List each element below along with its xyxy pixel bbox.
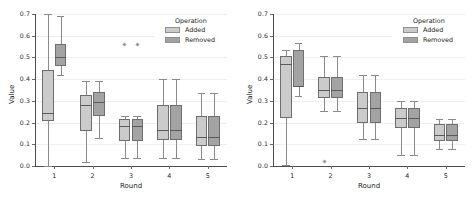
whisker-lower: [125, 141, 126, 157]
whisker-cap-lower: [95, 138, 103, 139]
whisker-cap-lower: [172, 158, 180, 159]
chart-panel-left: 0.00.10.20.30.40.50.60.712345RoundValueO…: [0, 0, 238, 206]
box-removed: [93, 92, 105, 116]
median-line: [408, 118, 420, 119]
median-line: [93, 102, 105, 103]
box-added: [434, 124, 446, 141]
y-gridline: [273, 14, 465, 15]
x-tick-mark: [169, 166, 170, 169]
whisker-cap-upper: [44, 14, 52, 15]
box-removed: [293, 50, 305, 87]
median-line: [318, 90, 330, 91]
whisker-upper: [99, 81, 100, 92]
legend: OperationAddedRemoved: [155, 16, 227, 50]
whisker-cap-upper: [82, 81, 90, 82]
x-tick-label: 2: [79, 172, 107, 180]
legend-title: Operation: [175, 17, 207, 25]
whisker-lower: [286, 118, 287, 165]
y-gridline: [35, 14, 227, 15]
whisker-upper: [48, 14, 49, 70]
x-tick-label: 1: [40, 172, 68, 180]
box-added: [157, 105, 169, 141]
box-added: [119, 119, 131, 142]
median-line: [196, 137, 208, 138]
whisker-lower: [375, 123, 376, 139]
y-axis-label: Value: [246, 85, 254, 104]
whisker-lower: [137, 141, 138, 157]
whisker-cap-upper: [410, 101, 418, 102]
x-tick-mark: [407, 166, 408, 169]
whisker-upper: [214, 93, 215, 116]
median-line: [208, 137, 220, 138]
x-tick-label: 5: [432, 172, 460, 180]
whisker-cap-lower: [320, 111, 328, 112]
median-line: [357, 108, 369, 109]
y-axis-line: [273, 14, 274, 166]
whisker-lower: [401, 128, 402, 155]
whisker-lower: [176, 140, 177, 158]
whisker-lower: [163, 140, 164, 158]
whisker-cap-upper: [159, 79, 167, 80]
box-removed: [132, 119, 144, 142]
whisker-lower: [48, 121, 49, 166]
y-gridline: [273, 144, 465, 145]
whisker-cap-lower: [436, 149, 444, 150]
whisker-lower: [363, 123, 364, 139]
y-tick-label: 0.7: [244, 10, 268, 17]
legend-label-added: Added: [423, 26, 443, 34]
median-line: [370, 108, 382, 109]
x-tick-mark: [369, 166, 370, 169]
x-tick-mark: [131, 166, 132, 169]
whisker-upper: [86, 81, 87, 95]
box-added: [80, 95, 92, 131]
whisker-lower: [414, 128, 415, 155]
whisker-lower: [299, 87, 300, 96]
whisker-cap-lower: [82, 162, 90, 163]
whisker-upper: [324, 56, 325, 78]
box-removed: [446, 124, 458, 141]
y-tick-label: 0.2: [6, 119, 30, 126]
x-tick-label: 1: [278, 172, 306, 180]
x-axis-label: Round: [35, 182, 227, 190]
median-line: [119, 126, 131, 127]
whisker-cap-upper: [397, 101, 405, 102]
whisker-lower: [86, 131, 87, 161]
whisker-cap-upper: [133, 116, 141, 117]
chart-panel-right: 0.00.10.20.30.40.50.60.712345RoundValueO…: [238, 0, 476, 206]
whisker-cap-upper: [210, 93, 218, 94]
legend-title: Operation: [413, 17, 445, 25]
whisker-upper: [176, 79, 177, 104]
whisker-cap-upper: [436, 119, 444, 120]
whisker-cap-lower: [371, 139, 379, 140]
y-gridline: [35, 101, 227, 102]
whisker-cap-upper: [333, 56, 341, 57]
x-axis-label: Round: [273, 182, 465, 190]
whisker-cap-lower: [44, 166, 52, 167]
y-tick-label: 0.2: [244, 119, 268, 126]
whisker-cap-lower: [359, 139, 367, 140]
median-line: [331, 90, 343, 91]
whisker-cap-upper: [295, 43, 303, 44]
boxplot-figure: 0.00.10.20.30.40.50.60.712345RoundValueO…: [0, 0, 476, 206]
median-line: [434, 135, 446, 136]
whisker-lower: [214, 146, 215, 158]
whisker-cap-lower: [133, 158, 141, 159]
whisker-cap-lower: [57, 75, 65, 76]
legend: OperationAddedRemoved: [393, 16, 465, 50]
y-tick-label: 0.4: [6, 75, 30, 82]
y-tick-label: 0.0: [244, 162, 268, 169]
whisker-upper: [163, 79, 164, 104]
box-added: [318, 77, 330, 98]
median-line: [395, 118, 407, 119]
whisker-cap-upper: [172, 79, 180, 80]
x-tick-label: 2: [317, 172, 345, 180]
whisker-lower: [452, 141, 453, 149]
median-line: [293, 86, 305, 87]
x-tick-mark: [292, 166, 293, 169]
box-removed: [55, 44, 67, 66]
median-line: [132, 126, 144, 127]
whisker-upper: [363, 75, 364, 92]
whisker-upper: [61, 16, 62, 44]
whisker-cap-lower: [198, 159, 206, 160]
whisker-lower: [99, 116, 100, 137]
